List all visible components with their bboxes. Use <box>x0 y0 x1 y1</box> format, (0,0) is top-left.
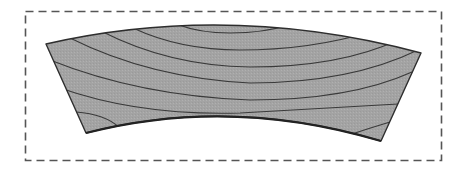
diagram-canvas <box>0 0 460 179</box>
board-cross-section-diagram <box>0 0 460 179</box>
board-shape <box>46 25 421 141</box>
